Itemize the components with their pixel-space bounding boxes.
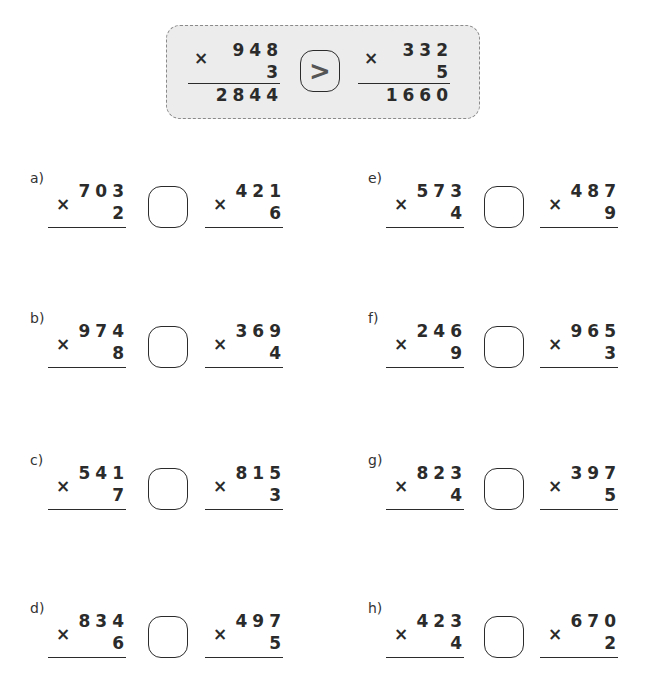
problem-label: e): [368, 170, 382, 186]
result-line: [386, 657, 464, 658]
factor-top: 948: [233, 39, 284, 61]
factor-top: 670: [571, 610, 622, 632]
result-line: [386, 509, 464, 510]
problem-left-multiplication: 423 × 4: [386, 610, 464, 658]
problem-left-multiplication: 703 × 2: [48, 180, 126, 228]
problem-label: a): [30, 170, 44, 186]
factor-bottom: 5: [269, 632, 286, 654]
factor-top: 703: [79, 180, 130, 202]
product: 1660: [358, 84, 453, 106]
factor-top: 332: [403, 39, 454, 61]
result-line: [540, 367, 618, 368]
factor-top: 369: [236, 320, 287, 342]
problem-right-multiplication: 397 × 5: [540, 462, 618, 510]
factor-bottom: 3: [604, 342, 621, 364]
factor-bottom: 4: [450, 632, 467, 654]
factor-bottom: 4: [450, 484, 467, 506]
comparison-answer-box[interactable]: [148, 186, 188, 228]
factor-bottom: 5: [604, 484, 621, 506]
problem-right-multiplication: 497 × 5: [205, 610, 283, 658]
factor-top: 497: [236, 610, 287, 632]
problem-right-multiplication: 421 × 6: [205, 180, 283, 228]
result-line: [48, 227, 126, 228]
factor-top: 815: [236, 462, 287, 484]
factor-top: 834: [79, 610, 130, 632]
factor-bottom: 2: [604, 632, 621, 654]
factor-bottom: 7: [112, 484, 129, 506]
product: 2844: [188, 84, 283, 106]
problem-right-multiplication: 815 × 3: [205, 462, 283, 510]
comparison-answer-box[interactable]: [484, 468, 524, 510]
comparison-answer-box[interactable]: [148, 616, 188, 658]
problem-left-multiplication: 823 × 4: [386, 462, 464, 510]
factor-top: 423: [417, 610, 468, 632]
problem-right-multiplication: 965 × 3: [540, 320, 618, 368]
factor-bottom: 4: [450, 202, 467, 224]
comparison-answer-box[interactable]: [484, 616, 524, 658]
result-line: [205, 509, 283, 510]
problem-left-multiplication: 974 × 8: [48, 320, 126, 368]
result-line: [48, 509, 126, 510]
result-line: [540, 657, 618, 658]
factor-top: 974: [79, 320, 130, 342]
comparison-answer-box[interactable]: [484, 326, 524, 368]
factor-bottom: 3: [269, 484, 286, 506]
factor-bottom: 6: [269, 202, 286, 224]
problem-label: b): [30, 310, 44, 326]
factor-bottom: 2: [112, 202, 129, 224]
problem-label: h): [368, 600, 382, 616]
factor-bottom: 6: [112, 632, 129, 654]
factor-top: 573: [417, 180, 468, 202]
factor-bottom: 9: [604, 202, 621, 224]
factor-bottom: 3: [266, 61, 283, 83]
comparison-answer-box[interactable]: [484, 186, 524, 228]
problem-left-multiplication: 573 × 4: [386, 180, 464, 228]
problem-left-multiplication: 834 × 6: [48, 610, 126, 658]
result-line: [386, 367, 464, 368]
example-comparison-box: >: [300, 50, 340, 92]
factor-top: 397: [571, 462, 622, 484]
problem-label: g): [368, 452, 382, 468]
result-line: [48, 657, 126, 658]
comparison-answer-box[interactable]: [148, 468, 188, 510]
result-line: [386, 227, 464, 228]
factor-bottom: 8: [112, 342, 129, 364]
factor-bottom: 9: [450, 342, 467, 364]
problem-label: f): [368, 310, 378, 326]
problem-right-multiplication: 369 × 4: [205, 320, 283, 368]
factor-top: 246: [417, 320, 468, 342]
problem-left-multiplication: 246 × 9: [386, 320, 464, 368]
example-right-multiplication: 332 × 5 1660: [358, 39, 450, 106]
example-left-multiplication: 948 × 3 2844: [188, 39, 280, 106]
factor-top: 823: [417, 462, 468, 484]
result-line: [205, 657, 283, 658]
factor-top: 421: [236, 180, 287, 202]
result-line: [540, 227, 618, 228]
factor-top: 965: [571, 320, 622, 342]
comparison-answer-box[interactable]: [148, 326, 188, 368]
problem-right-multiplication: 487 × 9: [540, 180, 618, 228]
factor-bottom: 5: [436, 61, 453, 83]
problem-label: d): [30, 600, 44, 616]
problem-left-multiplication: 541 × 7: [48, 462, 126, 510]
result-line: [540, 509, 618, 510]
factor-bottom: 4: [269, 342, 286, 364]
problem-label: c): [30, 452, 43, 468]
factor-top: 541: [79, 462, 130, 484]
result-line: [205, 367, 283, 368]
factor-top: 487: [571, 180, 622, 202]
result-line: [205, 227, 283, 228]
problem-right-multiplication: 670 × 2: [540, 610, 618, 658]
result-line: [48, 367, 126, 368]
